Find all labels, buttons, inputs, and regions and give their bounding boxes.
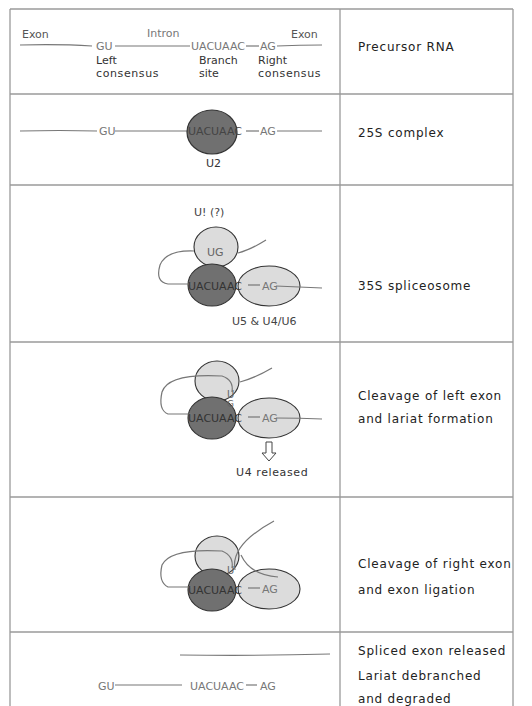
35s-spliceosome-diagram: U! (?) UG UACUAAC AG U5 & U4/U6 bbox=[159, 206, 322, 328]
u2-label: U2 bbox=[206, 157, 221, 170]
branch-sequence-label: UACUAAC bbox=[188, 280, 242, 293]
gu-label: GU bbox=[96, 40, 113, 53]
right-consensus-line2: consensus bbox=[258, 67, 321, 80]
exon-left-label: Exon bbox=[22, 28, 49, 41]
branch-sequence-label: UACUAAC bbox=[188, 125, 242, 138]
intron-label: Intron bbox=[147, 27, 180, 40]
spliced-exon-line bbox=[180, 654, 330, 655]
stage-degraded: and degraded bbox=[358, 688, 452, 706]
g-label: G bbox=[227, 399, 234, 409]
ag-label: AG bbox=[262, 280, 278, 293]
left-consensus-line1: Left bbox=[96, 54, 117, 67]
stage-right-exon-cleavage-line2: and exon ligation bbox=[358, 579, 475, 601]
spliced-exon-released-diagram: GU UACUAAC AG bbox=[98, 654, 330, 693]
ag-label: AG bbox=[260, 125, 276, 138]
branch-site-line1: Branch bbox=[199, 54, 238, 67]
u1-label: U! (?) bbox=[194, 206, 224, 219]
stage-left-exon-cleavage-line1: Cleavage of left exon bbox=[358, 385, 502, 407]
lariat-formation-diagram: U G UACUAAC AG U4 released bbox=[161, 361, 322, 479]
stage-left-exon-cleavage-line2: and lariat formation bbox=[358, 408, 494, 430]
precursor-rna-diagram: Exon Intron Exon GU UACUAAC AG Left cons… bbox=[20, 27, 322, 80]
branch-sequence-label: UACUAAC bbox=[188, 584, 242, 597]
branch-site-line2: site bbox=[199, 67, 219, 80]
ag-label: AG bbox=[260, 680, 276, 693]
exon-right-label: Exon bbox=[291, 28, 318, 41]
u-label: U bbox=[227, 565, 234, 576]
u5-u4-u6-label: U5 & U4/U6 bbox=[232, 315, 296, 328]
ug-label: UG bbox=[207, 246, 224, 259]
stage-lariat-debranched: Lariat debranched bbox=[358, 665, 482, 687]
branch-sequence-label: UACUAAC bbox=[188, 412, 242, 425]
branch-sequence-label: UACUAAC bbox=[190, 680, 244, 693]
u4-released-label: U4 released bbox=[236, 466, 308, 479]
stage-35s-spliceosome: 35S spliceosome bbox=[358, 275, 471, 297]
left-consensus-line2: consensus bbox=[96, 67, 159, 80]
branch-sequence-label: UACUAAC bbox=[191, 40, 245, 53]
ag-label: AG bbox=[262, 583, 278, 596]
ag-label: AG bbox=[262, 412, 278, 425]
exon-ligation-diagram: U UACUAAC AG bbox=[161, 521, 300, 611]
ag-label: AG bbox=[260, 40, 276, 53]
right-consensus-line1: Right bbox=[258, 54, 288, 67]
down-arrow-icon bbox=[262, 442, 276, 461]
25s-complex-diagram: GU UACUAAC AG U2 bbox=[20, 110, 322, 170]
gu-label: GU bbox=[98, 680, 115, 693]
gu-label: GU bbox=[99, 125, 116, 138]
stage-right-exon-cleavage-line1: Cleavage of right exon bbox=[358, 553, 512, 575]
stage-spliced-exon-released: Spliced exon released bbox=[358, 640, 506, 662]
stage-25s-complex: 25S complex bbox=[358, 122, 444, 144]
stage-precursor-rna: Precursor RNA bbox=[358, 36, 454, 58]
